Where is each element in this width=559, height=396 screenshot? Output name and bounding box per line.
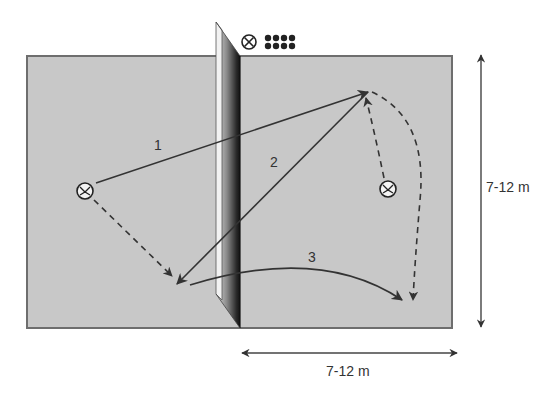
circled-x-icon [242,35,256,49]
player-icon [77,183,93,199]
horizontal-dimension-label: 7-12 m [326,363,370,379]
vertical-dimension-label: 7-12 m [486,179,530,195]
ball-cart-icon [265,35,295,49]
path-label-2: 2 [270,154,278,170]
path-label-3: 3 [308,249,316,265]
net [216,22,240,328]
player-icon [380,181,396,197]
path-label-1: 1 [154,137,162,153]
drill-diagram: 1 2 3 7-12 m 7-12 m [0,0,559,396]
